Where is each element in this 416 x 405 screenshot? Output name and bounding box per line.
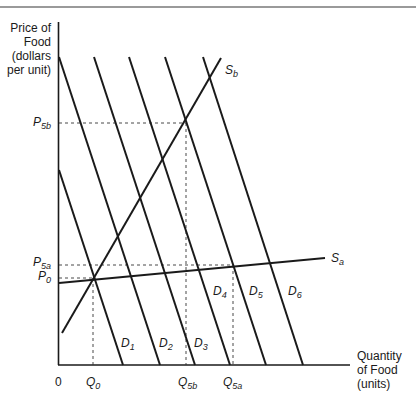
curve-label-d6: D6 (288, 284, 302, 300)
y-axis-label: Price of Food (dollars per unit) (7, 21, 51, 77)
demand-curve-d1 (59, 170, 123, 365)
supply-demand-diagram (0, 0, 416, 405)
quantity-label-q5b: Q5b (178, 375, 197, 391)
price-label-p5b: P5b (33, 115, 51, 131)
curve-label-sa: Sa (331, 251, 344, 267)
x-label-line: (units) (357, 377, 402, 391)
supply-curve-sb (62, 58, 221, 333)
curve-label-d3: D3 (194, 336, 208, 352)
x-label-line: of Food (357, 363, 402, 377)
curve-label-d5: D5 (249, 284, 263, 300)
y-label-line: Food (7, 35, 51, 49)
price-label-p0: P0 (38, 269, 51, 285)
quantity-label-q5a: Q5a (223, 375, 242, 391)
curve-label-d1: D1 (121, 336, 135, 352)
y-label-line: (dollars (7, 49, 51, 63)
demand-curve-d6 (203, 57, 303, 365)
curve-label-d2: D2 (159, 336, 173, 352)
y-label-line: per unit) (7, 63, 51, 77)
y-label-line: Price of (7, 21, 51, 35)
x-axis-label: Quantity of Food (units) (357, 349, 402, 391)
origin-label: 0 (55, 375, 62, 389)
x-label-line: Quantity (357, 349, 402, 363)
curve-label-d4: D4 (213, 284, 227, 300)
quantity-label-q0: Q0 (86, 375, 100, 391)
curve-label-sb: Sb (225, 63, 238, 79)
